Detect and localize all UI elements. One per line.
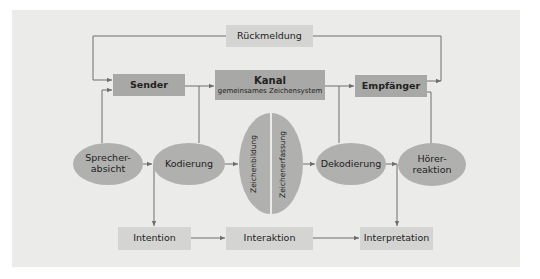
interaction-label: Interaktion [244, 233, 296, 244]
feedback-label: Rückmeldung [237, 31, 302, 42]
encoding-label: Kodierung [165, 159, 213, 170]
speaker-intent-ellipse: Sprecher- absicht [73, 143, 143, 185]
listener-reaction-line1: Hörer- [417, 154, 446, 165]
receiver-box: Empfänger [355, 75, 427, 97]
interaction-box: Interaktion [226, 227, 313, 250]
intention-label: Intention [133, 233, 176, 244]
channel-subtitle: gemeinsames Zeichensystem [218, 87, 323, 95]
sender-label: Sender [130, 80, 168, 91]
sign-formation-label: Zeichenbildung [249, 125, 258, 203]
sign-ellipse-divider [270, 113, 272, 214]
interpretation-box: Interpretation [360, 227, 433, 250]
decoding-label: Dekodierung [321, 159, 382, 170]
sign-perception-label: Zeichenerfassung [278, 121, 287, 207]
interpretation-label: Interpretation [364, 233, 430, 244]
receiver-label: Empfänger [362, 81, 420, 92]
decoding-ellipse: Dekodierung [316, 143, 386, 185]
listener-reaction-ellipse: Hörer- reaktion [398, 143, 466, 186]
channel-box: Kanal gemeinsames Zeichensystem [215, 70, 325, 100]
intention-box: Intention [118, 227, 191, 250]
channel-title: Kanal [254, 75, 286, 87]
encoding-ellipse: Kodierung [153, 143, 225, 185]
sender-box: Sender [113, 74, 185, 96]
speaker-intent-line2: absicht [91, 164, 125, 175]
feedback-box: Rückmeldung [226, 25, 313, 47]
listener-reaction-line2: reaktion [412, 165, 451, 176]
